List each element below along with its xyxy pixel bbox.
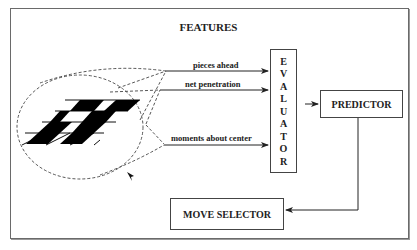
- checkerboard-icon: [22, 100, 140, 145]
- evaluator-letter: T: [280, 131, 287, 142]
- evaluator-letter: A: [280, 118, 287, 129]
- move-selector-box: MOVE SELECTOR: [170, 198, 284, 230]
- evaluator-letter: R: [280, 156, 287, 167]
- feature-label-moments-about-center: moments about center: [171, 133, 252, 143]
- mouse-cursor-icon: [127, 172, 134, 181]
- evaluator-letter: U: [280, 106, 287, 117]
- predictor-box: PREDICTOR: [320, 90, 403, 118]
- evaluator-letter: E: [280, 56, 287, 67]
- feature-label-pieces-ahead: pieces ahead: [193, 60, 239, 70]
- move-selector-label: MOVE SELECTOR: [183, 209, 271, 220]
- evaluator-letter: V: [280, 68, 287, 79]
- predictor-label: PREDICTOR: [332, 99, 392, 110]
- feature-label-net-penetration: net penetration: [185, 79, 240, 89]
- evaluator-box: E V A L U A T O R: [270, 49, 297, 173]
- evaluator-letter: L: [280, 93, 287, 104]
- evaluator-letter: A: [280, 81, 287, 92]
- evaluator-letter: O: [280, 143, 288, 154]
